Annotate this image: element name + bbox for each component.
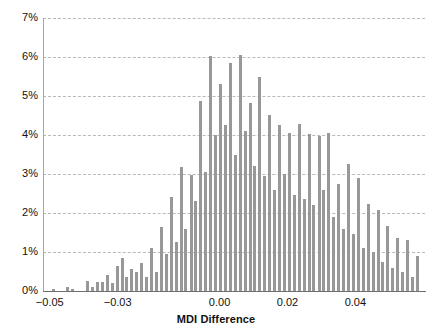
x-axis-tick-label: 0.00 <box>209 296 230 308</box>
histogram-bar <box>91 287 94 291</box>
histogram-bar <box>288 133 291 291</box>
histogram-bar <box>125 277 128 291</box>
plot-area <box>43 18 425 291</box>
histogram-bar <box>66 287 69 291</box>
histogram-bar <box>312 205 315 291</box>
histogram-bar <box>194 201 197 291</box>
histogram-bar <box>214 135 217 291</box>
histogram-bar <box>204 172 207 291</box>
histogram-bar <box>190 175 193 291</box>
histogram-bar <box>199 101 202 291</box>
histogram-bar <box>258 77 261 291</box>
y-axis-tick-label: 1% <box>0 246 38 257</box>
histogram-bar <box>342 229 345 291</box>
y-axis-tick-label: 0% <box>0 285 38 296</box>
histogram-bar <box>372 252 375 291</box>
histogram-bar <box>283 174 286 291</box>
histogram-bar <box>96 282 99 291</box>
histogram-bar <box>209 56 212 291</box>
histogram-bar <box>367 204 370 291</box>
histogram-bar <box>116 266 119 291</box>
histogram-bar <box>160 227 163 291</box>
histogram-bar <box>401 272 404 292</box>
histogram-bar <box>347 164 350 291</box>
histogram-bar <box>101 282 104 291</box>
histogram-bar <box>155 272 158 292</box>
histogram-bar <box>362 248 365 291</box>
y-axis-tick-label: 3% <box>0 168 38 179</box>
histogram-bar <box>357 178 360 291</box>
x-axis-title: MDI Difference <box>0 313 432 325</box>
histogram-bar <box>327 133 330 291</box>
histogram-bar <box>411 277 414 291</box>
histogram-bar <box>184 229 187 291</box>
histogram-bar <box>416 256 419 291</box>
histogram-bar <box>121 258 124 291</box>
x-axis-tick-label: −0.03 <box>104 296 132 308</box>
histogram-bar <box>249 103 252 291</box>
histogram-bar <box>175 242 178 291</box>
histogram-bar <box>303 199 306 291</box>
histogram-bar <box>165 254 168 291</box>
histogram-bar <box>219 84 222 291</box>
y-axis-tick-label: 2% <box>0 207 38 218</box>
histogram-bar <box>86 281 89 291</box>
histogram-bar <box>106 275 109 291</box>
histogram-bar <box>229 63 232 291</box>
y-axis-tick-label: 7% <box>0 12 38 23</box>
x-axis-line <box>43 291 426 292</box>
histogram-bar <box>253 166 256 291</box>
x-axis-tick-label: 0.02 <box>277 296 298 308</box>
y-axis-tick-label: 6% <box>0 51 38 62</box>
histogram-bar <box>322 190 325 291</box>
histogram-bar <box>293 195 296 291</box>
x-axis-tick-label: 0.04 <box>345 296 366 308</box>
histogram-bar <box>244 131 247 291</box>
histogram-bar <box>337 184 340 291</box>
y-axis-tick-label: 4% <box>0 129 38 140</box>
histogram-bar <box>234 155 237 292</box>
histogram-bar <box>170 197 173 291</box>
histogram-bar <box>145 277 148 291</box>
histogram-bar <box>278 125 281 291</box>
histogram-bar <box>150 248 153 291</box>
histogram-bar <box>377 210 380 291</box>
histogram-bar <box>71 289 74 291</box>
x-axis-tick-label: −0.05 <box>36 296 64 308</box>
histogram-bar <box>263 176 266 291</box>
histogram-bar <box>135 272 138 292</box>
histogram-bar <box>52 289 55 291</box>
histogram-bar <box>140 263 143 291</box>
histogram-chart: 0%1%2%3%4%5%6%7% −0.05−0.030.000.020.04 … <box>0 0 432 334</box>
histogram-bar <box>381 262 384 291</box>
histogram-bar <box>406 240 409 291</box>
histogram-bar <box>268 115 271 291</box>
histogram-bar <box>224 125 227 291</box>
histogram-bar <box>386 226 389 291</box>
histogram-bar <box>130 269 133 291</box>
histogram-bar <box>391 268 394 291</box>
histogram-bar <box>332 217 335 291</box>
histogram-bar <box>111 283 114 291</box>
y-axis-tick-label: 5% <box>0 90 38 101</box>
histogram-bar <box>180 167 183 291</box>
histogram-bar <box>273 190 276 291</box>
histogram-bar <box>308 134 311 291</box>
histogram-bar <box>352 234 355 291</box>
histogram-bar <box>318 136 321 291</box>
histogram-bar <box>239 55 242 291</box>
histogram-bar <box>298 124 301 291</box>
histogram-bar <box>396 238 399 291</box>
